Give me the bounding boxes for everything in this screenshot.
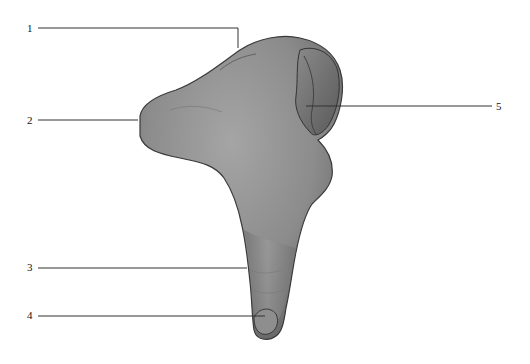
label-4: 4: [27, 310, 33, 321]
lenticular-process: [254, 309, 278, 334]
bone-illustration: [0, 0, 530, 364]
label-5: 5: [496, 101, 502, 112]
label-1: 1: [27, 23, 33, 34]
leader-line-1: [38, 28, 238, 48]
label-2: 2: [27, 115, 33, 126]
label-3: 3: [27, 262, 33, 273]
anatomical-figure: 1 2 3 4 5: [0, 0, 530, 364]
